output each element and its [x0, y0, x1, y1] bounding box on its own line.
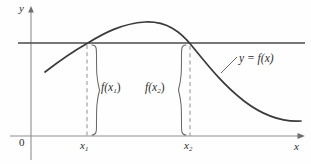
annotation-f-of-x1-head: f(x — [101, 81, 113, 93]
annotation-f-of-x2-head: f(x — [145, 81, 157, 93]
tick-label-x2-subscript: 2 — [189, 145, 192, 152]
tick-label-x2: x2 — [184, 140, 192, 152]
tick-label-x1: x1 — [80, 140, 88, 152]
x-axis-arrowhead — [298, 133, 306, 139]
annotation-f-of-x2: f(x2) — [145, 82, 165, 95]
annotation-f-of-x1-tail: ) — [117, 81, 121, 93]
x-axis-label: x — [294, 141, 299, 152]
origin-label: 0 — [19, 137, 25, 148]
leader-line-curve-equation — [221, 57, 237, 73]
function-curve — [45, 22, 301, 121]
brace-fx2 — [179, 45, 187, 135]
y-axis-arrowhead — [28, 6, 34, 13]
tick-label-x1-subscript: 1 — [85, 145, 88, 152]
curve-equation-label: y = f(x) — [239, 53, 274, 65]
annotation-f-of-x1: f(x1) — [101, 82, 121, 95]
function-graph-figure: y x 0 x1 x2 f(x1) f(x2) y = f(x) — [0, 0, 311, 164]
y-axis-label: y — [19, 3, 24, 14]
annotation-f-of-x2-tail: ) — [161, 81, 165, 93]
brace-fx1 — [92, 45, 100, 135]
